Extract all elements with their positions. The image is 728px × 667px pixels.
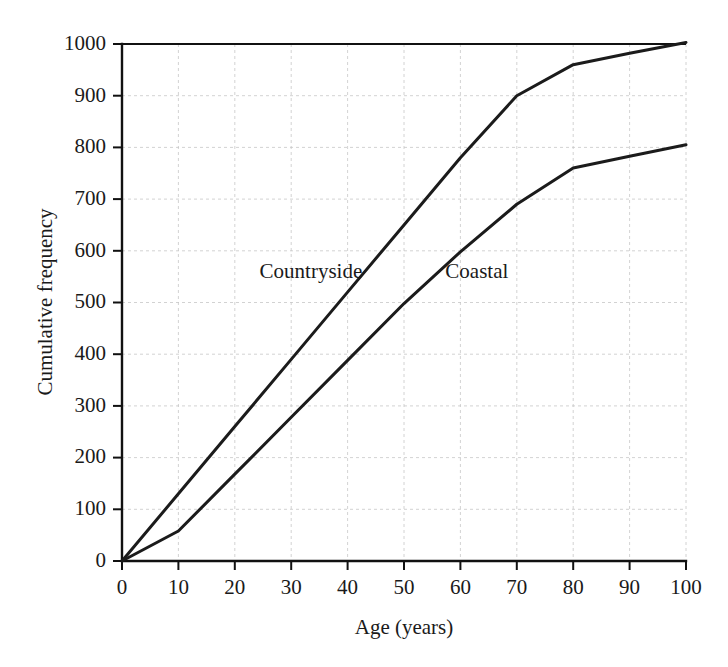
y-tick-label: 200 xyxy=(75,444,107,468)
x-tick-label: 70 xyxy=(506,575,527,599)
y-axis-title: Cumulative frequency xyxy=(33,208,57,396)
chart-background xyxy=(0,0,728,667)
x-tick-label: 90 xyxy=(619,575,640,599)
y-tick-label: 300 xyxy=(75,393,107,417)
y-tick-label: 800 xyxy=(75,134,107,158)
x-tick-label: 40 xyxy=(337,575,358,599)
cumulative-frequency-chart: 01002003004005006007008009001000 0102030… xyxy=(0,0,728,667)
x-tick-label: 0 xyxy=(117,575,128,599)
x-tick-label: 80 xyxy=(563,575,584,599)
y-tick-label: 100 xyxy=(75,496,107,520)
series-label-coastal: Coastal xyxy=(445,259,508,283)
y-tick-label: 500 xyxy=(75,289,107,313)
series-label-countryside: Countryside xyxy=(260,259,363,283)
x-axis-title: Age (years) xyxy=(355,615,454,639)
x-tick-label: 30 xyxy=(281,575,302,599)
y-tick-label: 1000 xyxy=(64,31,106,55)
x-tick-label: 100 xyxy=(670,575,702,599)
y-tick-label: 400 xyxy=(75,341,107,365)
y-tick-label: 0 xyxy=(96,548,107,572)
x-tick-label: 50 xyxy=(394,575,415,599)
y-tick-label: 700 xyxy=(75,186,107,210)
x-tick-label: 20 xyxy=(224,575,245,599)
x-tick-label: 60 xyxy=(450,575,471,599)
x-tick-label: 10 xyxy=(168,575,189,599)
y-tick-label: 600 xyxy=(75,238,107,262)
y-tick-label: 900 xyxy=(75,83,107,107)
chart-canvas: 01002003004005006007008009001000 0102030… xyxy=(0,0,728,667)
